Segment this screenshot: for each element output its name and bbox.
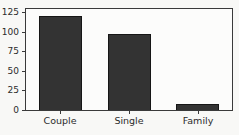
y-tick-mark xyxy=(22,12,26,13)
y-tick-mark xyxy=(22,90,26,91)
bar xyxy=(108,34,151,110)
plot-area: 0255075100125CoupleSingleFamily xyxy=(25,8,233,111)
y-tick-mark xyxy=(22,110,26,111)
x-tick-mark xyxy=(60,110,61,114)
y-tick-label: 100 xyxy=(2,27,19,36)
x-tick-label: Family xyxy=(183,116,214,126)
y-tick-label: 25 xyxy=(8,86,19,95)
y-tick-mark xyxy=(22,71,26,72)
x-tick-label: Couple xyxy=(44,116,77,126)
x-tick-mark xyxy=(198,110,199,114)
x-tick-label: Single xyxy=(114,116,143,126)
y-tick-mark xyxy=(22,32,26,33)
y-tick-label: 50 xyxy=(8,66,19,75)
y-tick-label: 125 xyxy=(2,8,19,17)
y-tick-label: 0 xyxy=(13,106,19,115)
y-tick-mark xyxy=(22,51,26,52)
bar-chart-figure: 0255075100125CoupleSingleFamily xyxy=(0,0,239,135)
x-tick-mark xyxy=(129,110,130,114)
y-tick-label: 75 xyxy=(8,47,19,56)
bar xyxy=(39,16,82,110)
